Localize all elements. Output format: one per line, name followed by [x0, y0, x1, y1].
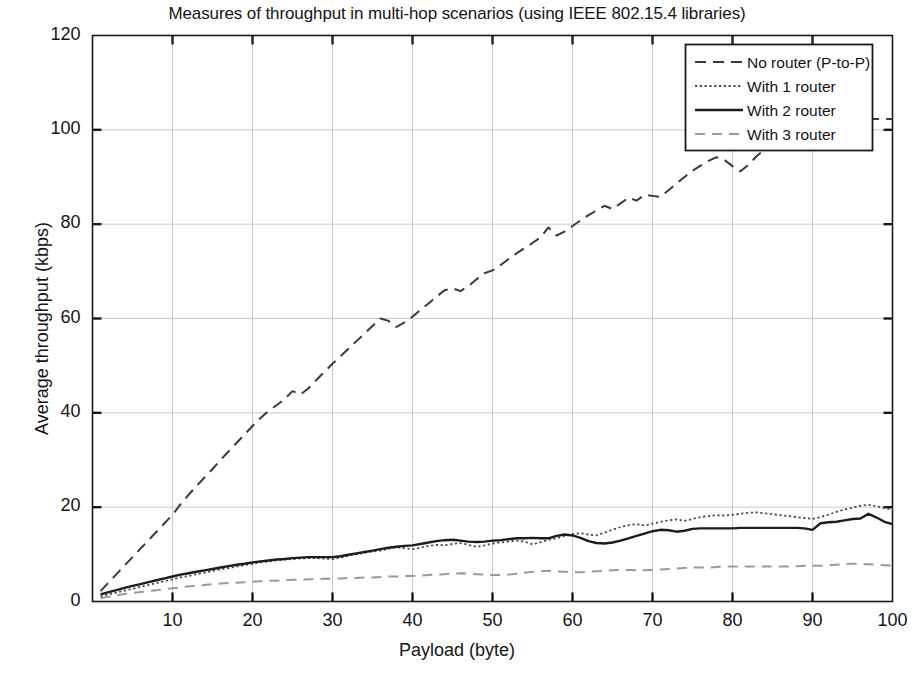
x-tick-label: 100 [853, 610, 914, 631]
x-tick-label: 90 [773, 610, 853, 631]
plot-svg: No router (P-to-P)With 1 routerWith 2 ro… [0, 0, 914, 675]
series-line [101, 514, 893, 595]
x-tick-label: 10 [133, 610, 213, 631]
chart-figure: Measures of throughput in multi-hop scen… [0, 0, 914, 675]
y-tick-label: 120 [50, 24, 80, 45]
x-tick-label: 50 [453, 610, 533, 631]
data-curves [101, 119, 893, 598]
y-tick-label: 20 [60, 495, 80, 516]
x-tick-label: 70 [613, 610, 693, 631]
series-line [101, 119, 893, 591]
legend-label: With 3 router [747, 126, 836, 143]
y-tick-label: 80 [60, 212, 80, 233]
y-tick-label: 40 [60, 401, 80, 422]
legend-label: No router (P-to-P) [747, 54, 870, 71]
x-tick-label: 20 [213, 610, 293, 631]
x-tick-label: 30 [293, 610, 373, 631]
x-tick-label: 40 [373, 610, 453, 631]
y-tick-label: 60 [60, 307, 80, 328]
y-tick-label: 100 [50, 118, 80, 139]
legend-label: With 1 router [747, 78, 836, 95]
chart-legend: No router (P-to-P)With 1 routerWith 2 ro… [686, 45, 873, 151]
legend-label: With 2 router [747, 102, 836, 119]
y-tick-label: 0 [70, 590, 80, 611]
series-line [101, 505, 893, 597]
x-tick-label: 80 [693, 610, 773, 631]
x-tick-label: 60 [533, 610, 613, 631]
